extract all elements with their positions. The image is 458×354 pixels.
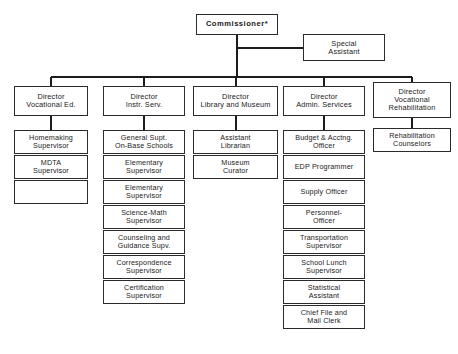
node-staff-0-1[interactable]: MDTASupervisor [14,155,88,179]
node-label-line: Counselors [393,140,431,148]
node-label-line: Supply Officer [300,188,347,196]
node-label-line: Officer [313,217,335,225]
node-label-line: Supervisor [306,267,342,275]
node-label-line: Librarian [221,142,250,150]
node-label-line: Supervisor [126,167,162,175]
node-label-line: EDP Programmer [295,163,354,171]
connector-head-to-children-1 [143,116,145,130]
node-label-line: Supervisor [126,292,162,300]
node-staff-1-2[interactable]: ElementarySupervisor [103,180,185,204]
node-label-line: Supervisor [126,267,162,275]
node-label-line: Assistant [309,292,340,300]
node-label-line: Instr. Serv. [126,101,163,109]
node-staff-3-6[interactable]: StatisticalAssistant [283,280,365,304]
node-label-line: On-Base Schools [115,142,173,150]
node-staff-1-1[interactable]: ElementarySupervisor [103,155,185,179]
node-staff-2-1[interactable]: MuseumCurator [193,155,278,179]
node-label-line: Library and Museum [200,101,270,109]
connector-bus-to-head-2 [235,77,237,86]
node-staff-3-2[interactable]: Supply Officer [283,180,365,204]
node-label-line: Officer [313,142,335,150]
node-staff-3-5[interactable]: School LunchSupervisor [283,255,365,279]
connector-bus-to-head-1 [143,77,145,86]
node-label-line: Commissioner* [206,20,268,28]
node-label-line: Guidance Supv. [118,242,171,250]
connector-bus-to-head-0 [50,77,52,86]
node-label-line: Admin. Services [296,101,352,109]
node-blank-0-2[interactable] [14,180,88,204]
node-staff-1-6[interactable]: CertificationSupervisor [103,280,185,304]
node-label-line: Supervisor [33,142,69,150]
node-staff-0-0[interactable]: HomemakingSupervisor [14,130,88,154]
node-label-line: Supervisor [126,192,162,200]
org-chart: Commissioner*SpecialAssistantDirectorVoc… [0,0,458,354]
connector-bus-to-head-3 [323,77,325,86]
connector-commissioner-stem [236,35,238,77]
node-commissioner[interactable]: Commissioner* [196,14,278,35]
node-label-line: Curator [223,167,248,175]
node-staff-1-3[interactable]: Science-MathSupervisor [103,205,185,229]
node-staff-3-4[interactable]: TransportationSupervisor [283,230,365,254]
node-label-line: Mail Clerk [307,317,340,325]
node-director-0[interactable]: DirectorVocational Ed. [14,86,88,116]
node-staff-2-0[interactable]: AssistantLibrarian [193,130,278,154]
node-label-line: Assistant [328,48,359,56]
node-label-line: Supervisor [126,217,162,225]
node-staff-3-0[interactable]: Budget & Acctng.Officer [283,130,365,154]
node-director-1[interactable]: DirectorInstr. Serv. [103,86,185,116]
node-label-line: Rehabilitation [389,104,436,112]
node-director-4[interactable]: DirectorVocationalRehabilitation [373,82,451,118]
connector-head-to-children-2 [235,116,237,130]
node-label-line: Vocational Ed. [26,101,75,109]
connector-director-bus [51,76,412,78]
node-staff-3-1[interactable]: EDP Programmer [283,155,365,179]
connector-special-assistant [237,47,303,49]
node-label-line: Supervisor [306,242,342,250]
node-staff-4-0[interactable]: RehabilitationCounselors [373,128,451,152]
connector-head-to-children-0 [50,116,52,130]
node-staff-3-7[interactable]: Chief File andMail Clerk [283,305,365,329]
node-director-2[interactable]: DirectorLibrary and Museum [193,86,278,116]
node-staff-1-0[interactable]: General Supt.On-Base Schools [103,130,185,154]
node-director-3[interactable]: DirectorAdmin. Services [283,86,365,116]
connector-head-to-children-4 [411,118,413,128]
connector-head-to-children-3 [323,116,325,130]
node-staff-1-5[interactable]: CorrespondenceSupervisor [103,255,185,279]
node-special-assistant[interactable]: SpecialAssistant [303,34,385,61]
node-label-line: Supervisor [33,167,69,175]
node-staff-1-4[interactable]: Counseling andGuidance Supv. [103,230,185,254]
node-staff-3-3[interactable]: Personnel-Officer [283,205,365,229]
